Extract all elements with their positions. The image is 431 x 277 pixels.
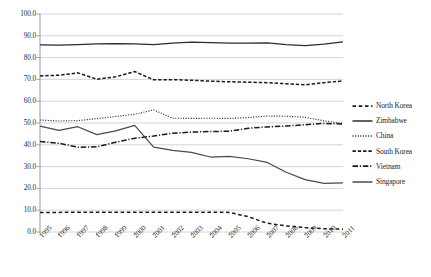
chart-legend: North KoreaZimbabweChinaSouth KoreaVietn… [352, 98, 431, 190]
line-chart: 0.010.020.030.040.050.060.070.080.090.01… [0, 0, 431, 277]
legend-line-swatch-icon [352, 161, 373, 171]
legend-line-swatch-icon [352, 131, 373, 141]
legend-item-label: Vietnam [376, 162, 400, 171]
y-tick-label: 90.0 [2, 32, 36, 40]
y-tick-label: 80.0 [2, 54, 36, 62]
series-line-vietnam [40, 123, 343, 147]
legend-item-china[interactable]: China [352, 128, 431, 143]
series-line-zimbabwe [40, 42, 343, 46]
legend-line-swatch-icon [352, 116, 373, 126]
x-axis-tick-labels: 1995199619971998199920002001200220032004… [40, 234, 343, 277]
y-tick-label: 30.0 [2, 163, 36, 171]
legend-line-swatch-icon [352, 177, 373, 187]
legend-item-singapore[interactable]: Singapore [352, 174, 431, 189]
legend-item-label: South Korea [376, 147, 412, 156]
y-tick-label: 20.0 [2, 184, 36, 192]
y-tick-label: 40.0 [2, 141, 36, 149]
y-tick-label: 0.0 [2, 228, 36, 236]
legend-item-label: China [376, 131, 393, 140]
series-line-south-korea [40, 72, 343, 85]
series-lines [40, 14, 343, 232]
y-tick-label: 100.0 [2, 10, 36, 18]
series-line-singapore [40, 125, 343, 183]
y-tick-label: 10.0 [2, 206, 36, 214]
legend-item-label: North Korea [376, 101, 412, 110]
legend-line-swatch-icon [352, 101, 373, 111]
legend-item-vietnam[interactable]: Vietnam [352, 159, 431, 174]
legend-item-north-korea[interactable]: North Korea [352, 98, 431, 113]
y-tick-label: 70.0 [2, 75, 36, 83]
y-tick-label: 60.0 [2, 97, 36, 105]
y-tick-label: 50.0 [2, 119, 36, 127]
series-line-china [40, 110, 343, 124]
legend-item-label: Singapore [376, 177, 405, 186]
legend-item-zimbabwe[interactable]: Zimbabwe [352, 113, 431, 128]
legend-item-south-korea[interactable]: South Korea [352, 144, 431, 159]
legend-line-swatch-icon [352, 146, 373, 156]
plot-area [40, 14, 343, 232]
y-axis-tick-labels: 0.010.020.030.040.050.060.070.080.090.01… [0, 14, 36, 232]
legend-item-label: Zimbabwe [376, 116, 407, 125]
